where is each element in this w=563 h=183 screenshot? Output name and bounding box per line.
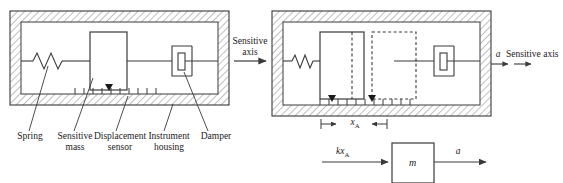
right-sensitive-mass-ghost (372, 32, 416, 99)
fbd-force-label: kxA (336, 146, 366, 160)
left-spring (21, 53, 90, 69)
right-sensitive-mass (320, 32, 364, 99)
left-damper (172, 46, 218, 76)
right-instrument-housing (272, 11, 491, 116)
right-sensitive-axis-label: Sensitive axis (506, 49, 563, 60)
callout-instrument-housing: Instrument housing (140, 131, 198, 152)
right-displacement-sensor-scale (320, 99, 410, 105)
callout-damper: Damper (192, 131, 240, 142)
figure-canvas: Spring Sensitive mass Displacement senso… (0, 0, 563, 183)
right-accel-symbol: a (492, 49, 504, 60)
displacement-symbol-label: xA (344, 117, 366, 131)
left-sensitive-mass (90, 32, 127, 90)
schematic-svg (0, 0, 563, 183)
right-damper (394, 46, 480, 76)
fbd-mass-symbol: m (409, 157, 416, 168)
center-sensitive-axis-label: Sensitive axis (226, 36, 274, 57)
fbd-accel-label: a (452, 146, 464, 157)
right-spring (283, 55, 320, 68)
